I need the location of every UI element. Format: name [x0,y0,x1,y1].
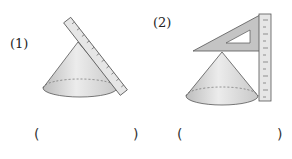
diagram-canvas [0,0,292,159]
answer-2-close-paren: ) [277,126,282,142]
cone-2 [186,52,258,105]
answer-1-close-paren: ) [133,126,138,142]
set-square [193,15,260,51]
ruler-2 [259,14,271,101]
answer-2-open-paren: ( [177,126,182,142]
answer-1-open-paren: ( [34,126,39,142]
